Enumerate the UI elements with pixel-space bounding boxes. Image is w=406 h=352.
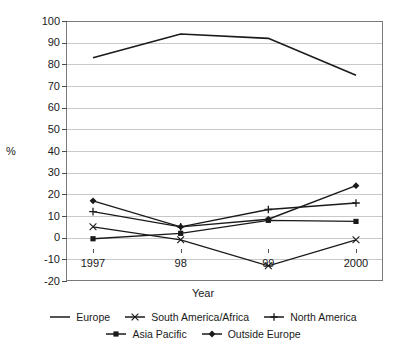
y-tick-mark	[62, 21, 67, 22]
y-tick-mark	[62, 281, 67, 282]
y-tick-label: 60	[26, 102, 60, 113]
legend-item-label: Europe	[76, 312, 110, 322]
y-tick-label: 90	[26, 37, 60, 48]
legend-row-2: Asia PacificOutside Europe	[0, 325, 406, 342]
y-axis-title: %	[6, 145, 16, 157]
x-tick-label: 2000	[329, 258, 383, 269]
y-tick-label: 10	[26, 211, 60, 222]
x-tick-mark	[181, 249, 182, 253]
y-tick-label: 70	[26, 81, 60, 92]
legend-item[interactable]: Outside Europe	[201, 329, 301, 339]
legend-marker-none-icon	[49, 312, 71, 322]
y-tick-label: 0	[26, 232, 60, 243]
x-tick-label: 99	[241, 258, 295, 269]
legend-marker-diamond-icon	[201, 329, 223, 339]
y-tick-label: -20	[26, 276, 60, 287]
x-axis-title: Year	[0, 287, 406, 299]
x-tick-label: 1997	[66, 258, 120, 269]
y-tick-label: 20	[26, 189, 60, 200]
legend-marker-square-icon	[105, 329, 127, 339]
y-tick-label: 100	[26, 16, 60, 27]
line-chart: % 1009080706050403020100-10-20 199798992…	[0, 0, 406, 352]
gridline	[67, 216, 382, 217]
x-tick-mark	[268, 249, 269, 253]
legend-item[interactable]: North America	[263, 312, 357, 322]
legend-item-label: Asia Pacific	[132, 329, 186, 339]
gridline	[67, 151, 382, 152]
legend-item-label: South America/Africa	[151, 312, 249, 322]
gridline	[67, 43, 382, 44]
gridline	[67, 108, 382, 109]
gridline	[67, 86, 382, 87]
legend-item[interactable]: Asia Pacific	[105, 329, 186, 339]
legend-item[interactable]: Europe	[49, 312, 110, 322]
x-tick-label: 98	[154, 258, 208, 269]
legend-marker	[270, 313, 278, 321]
x-tick-mark	[93, 249, 94, 253]
legend-marker	[114, 331, 119, 336]
gridline	[67, 173, 382, 174]
legend-item-label: North America	[290, 312, 357, 322]
y-tick-label: -10	[26, 254, 60, 265]
gridline	[67, 238, 382, 239]
x-tick-mark	[356, 249, 357, 253]
gridline	[67, 194, 382, 195]
gridline	[67, 64, 382, 65]
legend-item-label: Outside Europe	[228, 329, 301, 339]
gridline	[67, 129, 382, 130]
legend-marker-x-icon	[124, 312, 146, 322]
legend-row-1: EuropeSouth America/AfricaNorth America	[0, 308, 406, 325]
y-tick-label: 40	[26, 146, 60, 157]
chart-legend: EuropeSouth America/AfricaNorth America …	[0, 308, 406, 342]
y-tick-label: 50	[26, 124, 60, 135]
y-tick-label: 30	[26, 167, 60, 178]
legend-marker-plus-icon	[263, 312, 285, 322]
legend-marker	[208, 330, 215, 337]
y-tick-label: 80	[26, 59, 60, 70]
legend-item[interactable]: South America/Africa	[124, 312, 249, 322]
